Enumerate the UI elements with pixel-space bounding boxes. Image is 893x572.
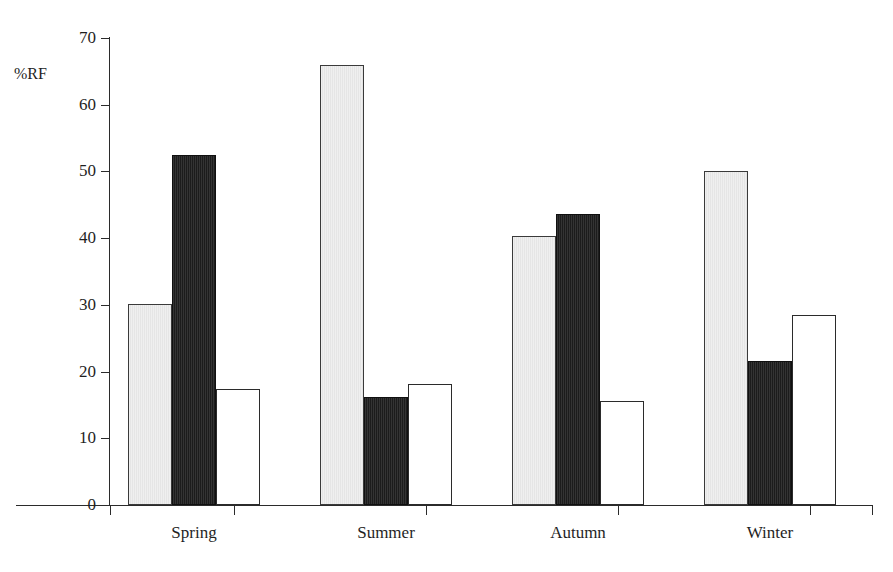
- y-axis-tick-40: [101, 238, 110, 239]
- y-axis-tick-10: [101, 438, 110, 439]
- y-axis-tick-label-40: 40: [40, 229, 96, 246]
- bar-summer-series-2: [364, 397, 408, 505]
- x-axis-label-winter: Winter: [710, 523, 830, 542]
- y-axis-tick-label-10: 10: [40, 429, 96, 446]
- y-axis-tick-label-30: 30: [40, 296, 96, 313]
- bar-chart-figure: %RF 010203040506070 SpringSummerAutumnWi…: [0, 0, 893, 572]
- x-axis-label-spring: Spring: [134, 523, 254, 542]
- x-axis-tick-5: [872, 506, 873, 515]
- y-axis-title: %RF: [14, 66, 47, 82]
- y-axis-tick-label-20: 20: [40, 363, 96, 380]
- y-axis-tick-0: [101, 505, 110, 506]
- bar-winter-series-2: [748, 361, 792, 505]
- bar-autumn-series-2: [556, 214, 600, 505]
- x-axis-tick-1: [234, 506, 235, 515]
- x-axis-label-autumn: Autumn: [518, 523, 638, 542]
- y-axis-tick-label-70: 70: [40, 29, 96, 46]
- y-axis-tick-50: [101, 171, 110, 172]
- x-axis-tick-3: [618, 506, 619, 515]
- bar-winter-series-1: [704, 171, 748, 505]
- clipped-figure-title: [0, 0, 893, 5]
- y-axis-tick-20: [101, 372, 110, 373]
- bar-autumn-series-1: [512, 236, 556, 505]
- bar-autumn-series-3: [600, 401, 644, 505]
- y-axis-tick-30: [101, 305, 110, 306]
- x-axis-line: [16, 505, 873, 506]
- bar-summer-series-1: [320, 65, 364, 505]
- y-axis-tick-label-0: 0: [40, 496, 96, 513]
- plot-area: [110, 38, 872, 505]
- bar-spring-series-3: [216, 389, 260, 505]
- y-axis-tick-70: [101, 38, 110, 39]
- x-axis-tick-4: [810, 506, 811, 515]
- y-axis-tick-60: [101, 105, 110, 106]
- x-axis-tick-2: [426, 506, 427, 515]
- y-axis-tick-label-60: 60: [40, 96, 96, 113]
- bar-spring-series-1: [128, 304, 172, 505]
- y-axis-tick-label-50: 50: [40, 162, 96, 179]
- bar-winter-series-3: [792, 315, 836, 505]
- x-axis-tick-0: [110, 506, 111, 515]
- bar-summer-series-3: [408, 384, 452, 505]
- x-axis-label-summer: Summer: [326, 523, 446, 542]
- bar-spring-series-2: [172, 155, 216, 505]
